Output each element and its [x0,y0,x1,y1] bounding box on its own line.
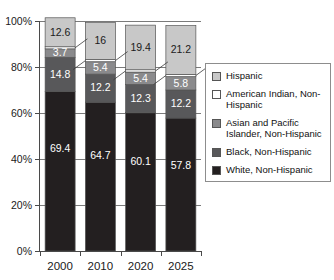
bar-segment-label: 12.6 [50,26,71,38]
bar-segment-label: 5.8 [174,77,189,89]
legend-swatch-icon [212,90,221,99]
bar-segment-label: 21.2 [171,43,192,55]
legend-item-label: Asian and Pacific Islander, Non-Hispanic [226,117,325,139]
bar-segment [85,102,115,251]
y-axis-labels-group: 0%20%40%60%80%100% [5,15,32,257]
bar-segment-label: 14.8 [50,68,71,80]
legend-item-label: Black, Non-Hispanic [226,146,312,157]
bar-segment-label: 3.7 [53,46,68,58]
legend-item[interactable]: White, Non-Hispanic [212,164,325,175]
x-axis-tick-label: 2025 [168,260,194,272]
y-axis-tick-label: 100% [5,15,32,27]
y-axis-tick-label: 20% [11,199,32,211]
bar-segment-label: 64.7 [90,149,111,161]
bar-segment [166,118,196,251]
y-axis-tick-label: 0% [17,245,32,257]
bar-segment-label: 12.3 [130,92,151,104]
legend-item-label: American Indian, Non-Hispanic [226,88,325,110]
bar-segment-label: 12.2 [90,81,111,93]
legend-item[interactable]: Asian and Pacific Islander, Non-Hispanic [212,117,325,139]
bar-segment-label: 16 [95,34,107,46]
x-axis-tick-label: 2020 [128,260,154,272]
legend-item[interactable]: Hispanic [212,70,325,81]
legend-swatch-icon [212,148,221,157]
stacked-bar-chart: 0%20%40%60%80%100% 69.414.83.712.664.712… [0,0,334,280]
legend-swatch-icon [212,119,221,128]
bar-segment-label: 5.4 [93,61,108,73]
chart-legend: HispanicAmerican Indian, Non-HispanicAsi… [205,63,331,182]
legend-swatch-icon [212,72,221,81]
x-axis-labels-group: 2000201020202025 [47,260,193,272]
x-axis-tick-label: 2010 [88,260,114,272]
bar-segment-label: 57.8 [171,159,192,171]
y-axis-tick-label: 40% [11,153,32,165]
bar-segment-label: 69.4 [50,142,71,154]
y-axis-tick-label: 60% [11,107,32,119]
x-axis-tick-label: 2000 [47,260,73,272]
bar-segment-label: 5.4 [133,72,148,84]
bar-segment-label: 19.4 [130,41,151,53]
legend-item[interactable]: Black, Non-Hispanic [212,146,325,157]
legend-swatch-icon [212,166,221,175]
legend-item-label: Hispanic [226,70,262,81]
legend-item[interactable]: American Indian, Non-Hispanic [212,88,325,110]
bar-segment [126,113,156,251]
bar-segment-label: 60.1 [130,155,151,167]
y-axis-tick-label: 80% [11,61,32,73]
bar-segment-label: 12.2 [171,97,192,109]
legend-item-label: White, Non-Hispanic [226,164,313,175]
bar-segment [45,91,75,251]
